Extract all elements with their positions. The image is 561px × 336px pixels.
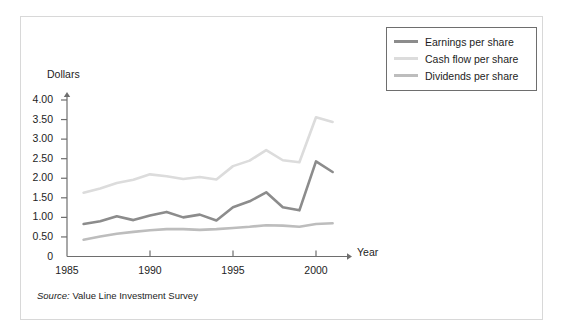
source-value: Value Line Investment Survey — [70, 290, 198, 301]
legend-label-dividends: Dividends per share — [425, 70, 518, 82]
x-axis-title: Year — [357, 246, 378, 258]
legend-swatch-earnings — [394, 40, 418, 43]
y-tick-label: 2.50 — [19, 152, 53, 164]
chart-screenshot: Dollars Year 00.501.001.502.002.503.003.… — [0, 0, 561, 336]
y-tick-label: 3.50 — [19, 113, 53, 125]
legend-label-cash-flow: Cash flow per share — [425, 53, 518, 65]
x-tick-label: 1995 — [213, 264, 253, 276]
y-tick-label: 1.50 — [19, 191, 53, 203]
legend-item-earnings: Earnings per share — [394, 33, 529, 50]
legend-item-dividends: Dividends per share — [394, 67, 529, 84]
legend-item-cash-flow: Cash flow per share — [394, 50, 529, 67]
y-tick-label: 4.00 — [19, 93, 53, 105]
y-tick-label: 0.50 — [19, 230, 53, 242]
y-tick-label: 2.00 — [19, 171, 53, 183]
x-tick-label: 1990 — [130, 264, 170, 276]
y-tick-label: 3.00 — [19, 132, 53, 144]
y-axis-title: Dollars — [47, 68, 80, 80]
y-tick-label: 0 — [19, 250, 53, 262]
chart-legend: Earnings per share Cash flow per share D… — [386, 27, 537, 91]
x-tick-label: 1985 — [47, 264, 87, 276]
y-tick-label: 1.00 — [19, 210, 53, 222]
x-tick-label: 2000 — [296, 264, 336, 276]
source-label: Source: — [37, 290, 70, 301]
source-note: Source: Value Line Investment Survey — [37, 290, 198, 301]
legend-swatch-cash-flow — [394, 57, 418, 60]
legend-label-earnings: Earnings per share — [425, 36, 514, 48]
legend-swatch-dividends — [394, 74, 418, 77]
